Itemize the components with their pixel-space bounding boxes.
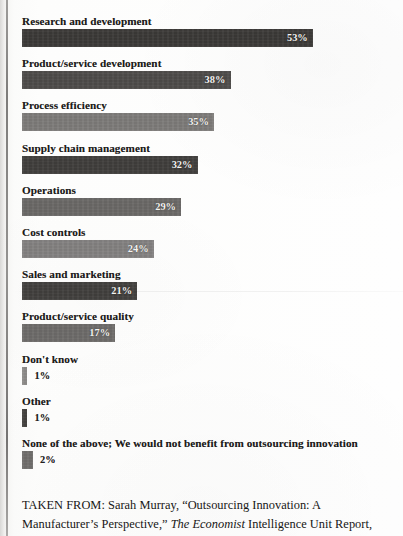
bar (22, 71, 231, 89)
bar-value-label: 38% (205, 71, 226, 89)
bar (22, 29, 313, 47)
horizontal-bar-chart: Research and development53%Product/servi… (0, 0, 403, 488)
bar-category-label: Operations (22, 184, 76, 196)
bar-category-label: Process efficiency (22, 99, 107, 111)
bar (22, 451, 33, 469)
bar-category-label: Cost controls (22, 226, 86, 238)
bar-value-label: 53% (287, 29, 308, 47)
bar-category-label: Don't know (22, 353, 78, 365)
bar-category-label: Sales and marketing (22, 268, 121, 280)
bar-category-label: Product/service development (22, 57, 161, 69)
bar-value-label: 29% (155, 198, 176, 216)
bar-category-label: Other (22, 395, 51, 407)
bar (22, 409, 27, 427)
citation-publication: The Economist (171, 517, 245, 531)
bar-value-label: 32% (172, 156, 193, 174)
bar-value-label: 21% (111, 282, 132, 300)
bar-category-label: None of the above; We would not benefit … (22, 437, 358, 449)
bar (22, 367, 27, 385)
bar-value-label: 17% (89, 324, 110, 342)
bar-value-label: 1% (34, 409, 50, 427)
bar-category-label: Product/service quality (22, 310, 134, 322)
bar-value-label: 1% (34, 367, 50, 385)
bar-value-label: 2% (40, 451, 56, 469)
bar-value-label: 24% (128, 240, 149, 258)
source-citation: TAKEN FROM: Sarah Murray, “Outsourcing I… (22, 496, 392, 534)
citation-suffix: Intelligence Unit Report, (245, 517, 372, 531)
bar-category-label: Supply chain management (22, 142, 150, 154)
bar (22, 113, 214, 131)
bar-category-label: Research and development (22, 15, 152, 27)
bar-value-label: 35% (188, 113, 209, 131)
